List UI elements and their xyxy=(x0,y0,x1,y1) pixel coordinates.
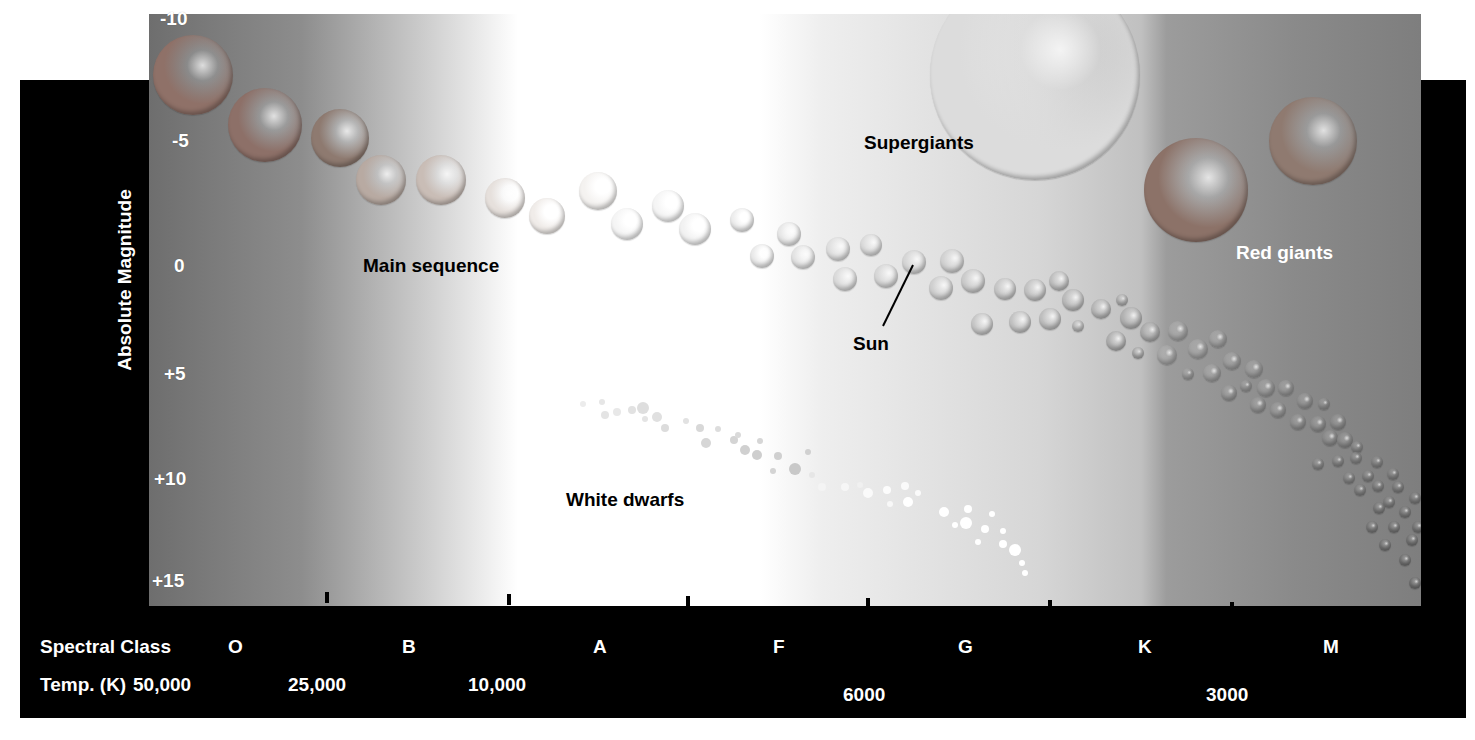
x-tick-mark xyxy=(866,598,870,609)
x-tick-mark xyxy=(325,592,329,603)
x-tick-mark xyxy=(1048,600,1052,611)
x-tick-mark xyxy=(1230,602,1234,613)
sun-pointer-line xyxy=(0,0,1475,740)
x-tick-mark xyxy=(686,596,690,607)
x-tick-mark xyxy=(507,594,511,605)
